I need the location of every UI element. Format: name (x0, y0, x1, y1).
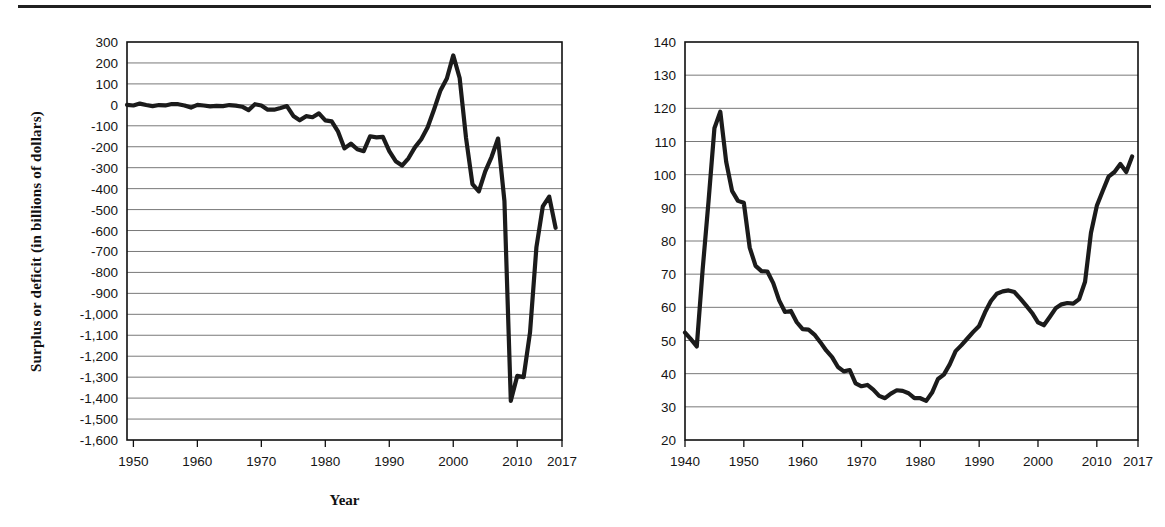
debt-chart-figure: 1401301201101009080706050403020194019501… (600, 0, 1165, 527)
deficit-x-tick-label: 1990 (374, 454, 404, 469)
deficit-y-tick-label: -1,000 (80, 307, 118, 322)
deficit-y-tick-label: 300 (95, 35, 118, 50)
deficit-y-tick-label: -400 (91, 182, 118, 197)
deficit-y-tick-label: -300 (91, 161, 118, 176)
debt-x-tick-label: 1990 (964, 454, 994, 469)
debt-x-tick-label: 1970 (846, 454, 876, 469)
debt-y-tick-label: 140 (653, 35, 676, 50)
deficit-y-tick-label: -1,600 (80, 433, 118, 448)
figure-page: 3002001000-100-200-300-400-500-600-700-8… (0, 0, 1165, 527)
deficit-y-tick-label: -1,200 (80, 349, 118, 364)
debt-y-tick-label: 40 (661, 367, 676, 382)
debt-x-tick-label: 1940 (670, 454, 700, 469)
deficit-x-tick-label: 2017 (547, 454, 577, 469)
deficit-y-tick-label: -1,300 (80, 370, 118, 385)
deficit-y-tick-label: 200 (95, 56, 118, 71)
debt-x-tick-label: 1980 (905, 454, 935, 469)
deficit-y-tick-label: 100 (95, 77, 118, 92)
deficit-data-line (127, 55, 556, 400)
deficit-x-tick-label: 1980 (310, 454, 340, 469)
deficit-y-tick-label: -200 (91, 140, 118, 155)
debt-y-tick-label: 50 (661, 334, 676, 349)
debt-x-tick-label: 2017 (1123, 454, 1153, 469)
debt-y-tick-label: 110 (654, 135, 676, 150)
debt-x-tick-label: 2010 (1082, 454, 1112, 469)
deficit-x-tick-label: 1970 (246, 454, 276, 469)
debt-y-tick-label: 30 (661, 400, 676, 415)
debt-y-tick-label: 60 (661, 300, 676, 315)
deficit-y-tick-label: -1,100 (80, 328, 118, 343)
deficit-y-tick-label: -800 (91, 265, 118, 280)
deficit-y-tick-label: -100 (91, 119, 118, 134)
debt-y-tick-label: 70 (661, 267, 676, 282)
debt-x-tick-label: 1950 (729, 454, 759, 469)
debt-y-tick-label: 120 (653, 101, 676, 116)
deficit-x-tick-label: 1960 (182, 454, 212, 469)
debt-y-tick-label: 20 (661, 433, 676, 448)
debt-x-tick-label: 2000 (1023, 454, 1053, 469)
debt-y-tick-label: 100 (653, 168, 676, 183)
deficit-y-tick-label: -1,400 (80, 391, 118, 406)
debt-x-tick-label: 1960 (788, 454, 818, 469)
debt-y-tick-label: 80 (661, 234, 676, 249)
deficit-x-tick-label: 1950 (118, 454, 148, 469)
deficit-y-tick-label: -1,500 (80, 412, 118, 427)
deficit-x-tick-label: 2000 (438, 454, 468, 469)
deficit-chart-figure: 3002001000-100-200-300-400-500-600-700-8… (0, 0, 600, 527)
deficit-y-tick-label: 0 (110, 98, 118, 113)
debt-data-line (685, 112, 1132, 401)
deficit-x-axis-title: Year (127, 492, 562, 509)
debt-y-tick-label: 90 (661, 201, 676, 216)
deficit-y-tick-label: -600 (91, 224, 118, 239)
deficit-x-tick-label: 2010 (502, 454, 532, 469)
deficit-y-tick-label: -900 (91, 286, 118, 301)
deficit-y-axis-title: Surplus or deficit (in billions of dolla… (28, 42, 45, 442)
deficit-y-tick-label: -700 (91, 244, 118, 259)
deficit-y-tick-label: -500 (91, 203, 118, 218)
deficit-chart-plot: 3002001000-100-200-300-400-500-600-700-8… (0, 0, 600, 527)
debt-y-tick-label: 130 (653, 68, 676, 83)
debt-chart-plot: 1401301201101009080706050403020194019501… (600, 0, 1165, 527)
